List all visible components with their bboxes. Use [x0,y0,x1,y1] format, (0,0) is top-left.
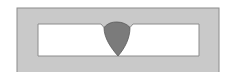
weld-diagram [0,0,232,72]
